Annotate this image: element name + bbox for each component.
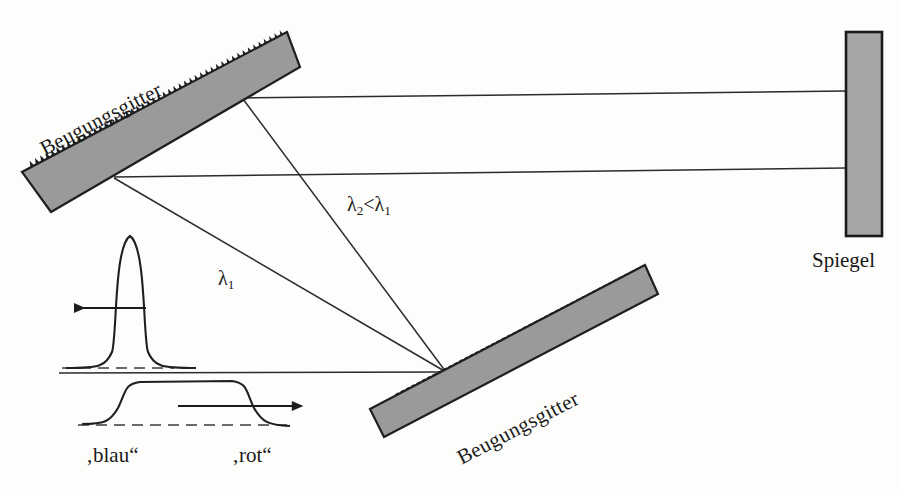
grating-bottom[interactable] <box>370 265 658 437</box>
lambda-symbol: λ <box>218 267 228 289</box>
optical-diagram-canvas: Beugungsgitter Beugungsgitter Spiegel λ1… <box>0 0 899 490</box>
ray-lambda1 <box>114 178 446 372</box>
ray-horizontal-lower <box>114 168 846 177</box>
pulse-stretched <box>78 381 292 426</box>
grating-top-body <box>22 32 300 212</box>
ray-label-lambda2-relation: λ2<λ1 <box>347 193 391 219</box>
ray-horizontal-upper <box>243 91 846 98</box>
diagram-vector-layer <box>0 0 899 490</box>
mirror-label: Spiegel <box>812 248 875 273</box>
lambda1-subscript-right: 1 <box>384 203 391 218</box>
ray-lambda2 <box>243 99 446 372</box>
pulse-label-blue: ‚blau“ <box>86 443 138 468</box>
ray-label-lambda1: λ1 <box>218 267 234 293</box>
pulse-label-red: ‚rot“ <box>232 443 272 468</box>
pulse-stretched-curve <box>82 381 290 426</box>
lambda2-symbol: λ <box>347 193 357 215</box>
lambda1-symbol-right: λ <box>375 193 385 215</box>
lambda-subscript: 1 <box>228 277 235 292</box>
ray-horizontal-output <box>59 372 446 373</box>
mirror-body[interactable] <box>846 32 882 236</box>
pulse-short-gaussian <box>62 236 196 368</box>
grating-bottom-body <box>370 265 658 437</box>
relation-operator: < <box>363 193 374 215</box>
pulse-short-curve <box>66 236 196 368</box>
